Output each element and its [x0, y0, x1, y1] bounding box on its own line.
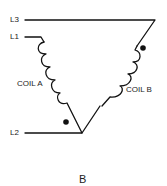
coil-a-winding: [38, 42, 82, 133]
terminal-label-l3: L3: [10, 16, 19, 24]
polarity-dot-b: [140, 45, 146, 51]
polarity-dot-a: [63, 119, 69, 125]
coil-a-label: COIL A: [17, 80, 43, 88]
coil-b-label: COIL B: [126, 86, 152, 94]
terminal-label-l2: L2: [10, 129, 19, 137]
figure-caption: B: [79, 174, 86, 185]
l2-wire: [25, 106, 100, 133]
coil-b-winding: [102, 46, 140, 106]
l1-wire: [25, 37, 44, 42]
terminal-label-l1: L1: [10, 33, 19, 41]
